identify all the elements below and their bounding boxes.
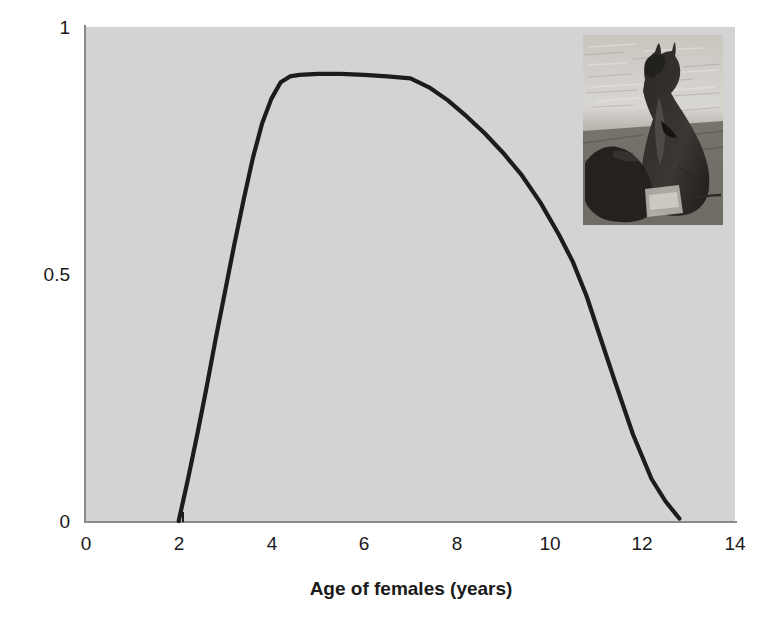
- y-tick-label-1: 1: [10, 17, 70, 39]
- x-tick-label-10: 10: [525, 533, 575, 555]
- y-tick-label-0point5: 0.5: [10, 264, 70, 286]
- x-tick-label-8: 8: [432, 533, 482, 555]
- x-tick-label-2: 2: [154, 533, 204, 555]
- x-tick-label-14: 14: [710, 533, 760, 555]
- kangaroo-photo-graphic: [583, 35, 723, 225]
- kangaroo-photo: [583, 35, 723, 225]
- x-tick-label-12: 12: [617, 533, 667, 555]
- x-tick-label-0: 0: [61, 533, 111, 555]
- x-tick-label-4: 4: [247, 533, 297, 555]
- x-axis-tick-mark-2: [182, 512, 184, 522]
- x-tick-label-6: 6: [339, 533, 389, 555]
- fecundity-chart-figure: Fecundity 1 0.5 0 0 2 4 6 8 10 12 14 Age…: [0, 0, 761, 627]
- y-tick-label-0: 0: [10, 511, 70, 533]
- x-axis-title: Age of females (years): [86, 578, 736, 600]
